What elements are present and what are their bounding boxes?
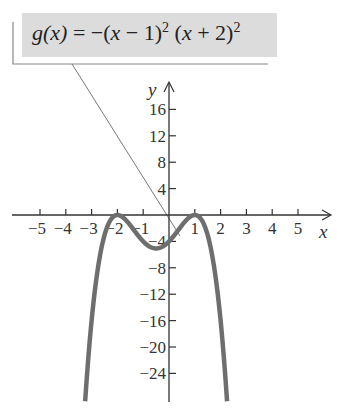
x-tick-label: −5 bbox=[28, 219, 46, 238]
x-tick-label: 1 bbox=[191, 219, 200, 238]
callout-pointer-line bbox=[72, 64, 180, 236]
x-tick-label: 2 bbox=[216, 219, 225, 238]
function-plot: −5−4−3−2−112345161284−4−8−12−16−20−24xy bbox=[0, 0, 348, 420]
x-tick-label: 3 bbox=[242, 219, 251, 238]
x-tick-label: −4 bbox=[54, 219, 73, 238]
x-tick-label: 4 bbox=[268, 219, 277, 238]
y-tick-label: −8 bbox=[148, 259, 166, 278]
y-tick-label: −12 bbox=[139, 285, 166, 304]
y-tick-label: 12 bbox=[149, 127, 166, 146]
x-tick-label: 5 bbox=[294, 219, 303, 238]
x-tick-label: −3 bbox=[80, 219, 98, 238]
y-tick-label: −24 bbox=[139, 364, 166, 383]
callout-bracket bbox=[13, 22, 268, 64]
y-axis-label: y bbox=[146, 79, 157, 100]
x-axis-label: x bbox=[318, 221, 328, 242]
y-tick-label: 16 bbox=[149, 100, 166, 119]
y-tick-label: −16 bbox=[139, 312, 166, 331]
y-tick-label: 4 bbox=[158, 180, 167, 199]
y-tick-label: −20 bbox=[139, 338, 166, 357]
y-tick-label: 8 bbox=[158, 153, 167, 172]
